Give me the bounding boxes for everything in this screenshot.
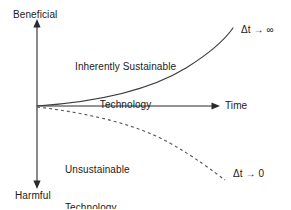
x-axis-label: Time: [225, 100, 247, 112]
sustainable-region-label-line2: Technology: [75, 99, 176, 112]
x-axis-right-arrowhead-icon: [212, 102, 221, 109]
sustainable-region-label-line1: Inherently Sustainable: [75, 61, 176, 74]
unsustainable-region-label-line1: Unsustainable: [65, 164, 130, 177]
unsustainable-region-label-line2: Technology: [65, 202, 130, 210]
sustainable-curve-limit-annotation: Δt → ∞: [241, 24, 274, 36]
y-axis-top-label: Beneficial: [13, 9, 57, 21]
unsustainable-curve-limit-annotation: Δt → 0: [233, 168, 264, 180]
y-axis: [33, 19, 40, 189]
unsustainable-technology-region-label: Unsustainable Technology: [65, 139, 130, 209]
technology-sustainability-diagram: Beneficial Harmful Time Inherently Susta…: [0, 0, 291, 209]
y-axis-down-arrowhead-icon: [33, 181, 40, 190]
sustainable-technology-region-label: Inherently Sustainable Technology: [75, 36, 176, 136]
y-axis-bottom-label: Harmful: [15, 190, 51, 202]
